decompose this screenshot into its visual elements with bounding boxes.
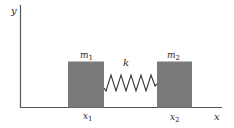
mass-2-label: m2 [167, 50, 180, 62]
spring-constant-label: k [123, 57, 129, 68]
mass-1-label: m1 [80, 50, 93, 62]
x-axis-label: x [214, 111, 220, 122]
mass-1-block [68, 62, 104, 108]
spring [104, 75, 157, 91]
mass-2-position-label: x2 [170, 112, 180, 124]
mass-1-position-label: x1 [83, 111, 93, 123]
y-axis-label: y [10, 5, 17, 16]
mass-spring-diagram: y x m1 x1 m2 x2 k [0, 0, 234, 128]
mass-2-block [157, 62, 192, 108]
